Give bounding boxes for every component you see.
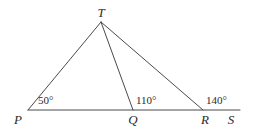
vertex-label-t: T: [97, 6, 104, 19]
vertex-label-s: S: [228, 113, 235, 126]
angle-label-p: 50°: [38, 95, 53, 106]
geometry-canvas: [0, 0, 254, 131]
vertex-label-p: P: [14, 113, 22, 126]
angle-label-q: 110°: [136, 95, 157, 106]
angle-label-r: 140°: [206, 95, 227, 106]
vertex-label-r: R: [201, 113, 209, 126]
vertex-label-q: Q: [128, 113, 137, 126]
geometry-figure: P Q R S T 50° 110° 140°: [0, 0, 254, 131]
